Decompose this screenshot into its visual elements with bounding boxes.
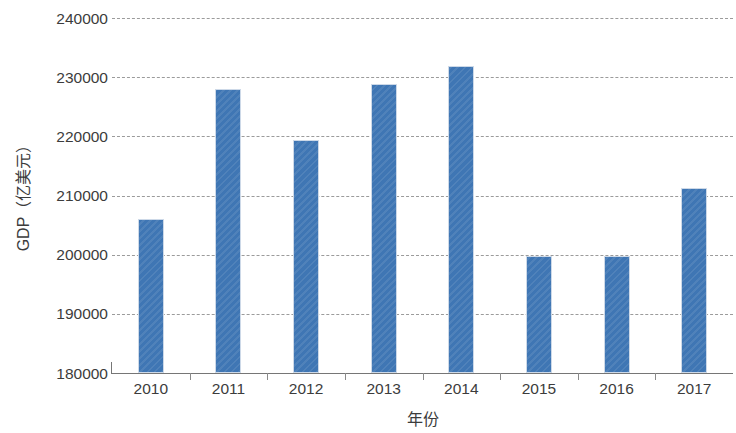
y-tick-label: 200000 (22, 247, 108, 263)
x-tick-label: 2016 (577, 381, 657, 397)
plot-area (112, 18, 733, 373)
gdp-bar-chart: GDP（亿美元） 240000 230000 220000 210000 200… (0, 0, 736, 433)
x-tick-label: 2014 (421, 381, 501, 397)
gridline (112, 255, 733, 256)
bar-2011 (215, 89, 241, 373)
y-tick-label: 240000 (22, 11, 108, 27)
x-tick-label: 2017 (654, 381, 734, 397)
y-tick-label: 230000 (22, 70, 108, 86)
gridline (112, 77, 733, 78)
x-axis-title: 年份 (112, 406, 733, 430)
gridline (112, 18, 733, 19)
y-tick-label: 180000 (22, 366, 108, 382)
x-tick-label: 2010 (111, 381, 191, 397)
x-tick-label: 2015 (499, 381, 579, 397)
x-axis-tick (267, 373, 268, 380)
bar-2014 (448, 66, 474, 373)
x-tick-label: 2011 (188, 381, 268, 397)
x-tick-label: 2012 (266, 381, 346, 397)
bar-2010 (138, 219, 164, 373)
x-axis-tick (500, 373, 501, 380)
bar-2013 (371, 84, 397, 373)
y-tick-label: 210000 (22, 188, 108, 204)
y-axis-line (111, 362, 112, 374)
y-axis-tick-labels: 240000 230000 220000 210000 200000 19000… (0, 0, 108, 433)
x-axis-tick (655, 373, 656, 380)
bar-2012 (293, 140, 319, 373)
y-tick-label: 190000 (22, 306, 108, 322)
x-axis-tick (345, 373, 346, 380)
bar-2017 (681, 188, 707, 373)
gridline (112, 136, 733, 137)
gridline (112, 314, 733, 315)
x-axis-tick (190, 373, 191, 380)
bar-2015 (526, 256, 552, 373)
bar-2016 (604, 256, 630, 373)
x-axis-tick (578, 373, 579, 380)
x-axis-tick (423, 373, 424, 380)
x-tick-label: 2013 (344, 381, 424, 397)
gridline (112, 196, 733, 197)
y-tick-label: 220000 (22, 129, 108, 145)
